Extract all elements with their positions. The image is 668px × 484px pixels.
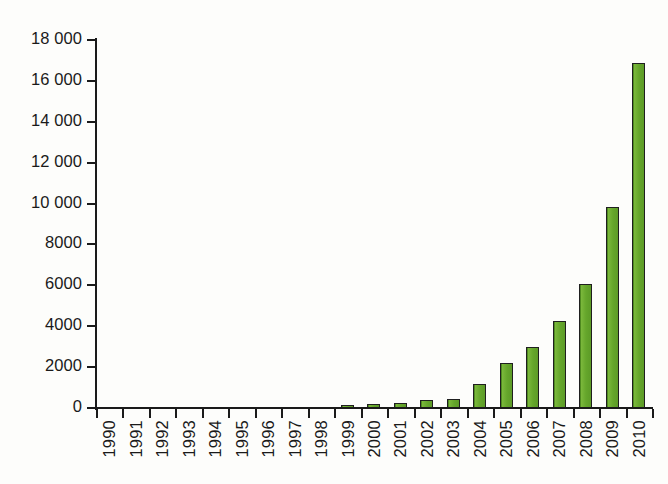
y-axis-tick-label: 18 000 (31, 29, 82, 48)
x-axis-tick-mark (652, 409, 654, 418)
y-axis-tick-label: 14 000 (31, 111, 82, 130)
y-axis-tick-mark (87, 243, 96, 245)
x-axis-tick-mark (599, 409, 601, 418)
y-axis-tick-label: 4000 (45, 315, 82, 334)
y-axis-tick-mark (87, 162, 96, 164)
bar-slot (361, 40, 387, 408)
y-axis-tick-mark (87, 39, 96, 41)
x-axis-label-1991: 1991 (126, 420, 145, 458)
x-axis-label-slot: 1992 (149, 420, 175, 482)
x-axis-label-slot: 1999 (334, 420, 360, 482)
x-axis-tick-mark (202, 409, 204, 418)
bar-slot (228, 40, 254, 408)
y-axis-tick-mark (87, 203, 96, 205)
x-axis-label-1994: 1994 (206, 420, 225, 458)
bar-slot (202, 40, 228, 408)
x-axis-label-slot: 2008 (573, 420, 599, 482)
x-axis-tick-mark (467, 409, 469, 418)
x-axis-label-slot: 2009 (599, 420, 625, 482)
bar-slot (573, 40, 599, 408)
x-axis-tick-mark (149, 409, 151, 418)
bar-slot (149, 40, 175, 408)
y-axis-tick-label: 0 (73, 397, 82, 416)
y-axis-tick-label: 6000 (45, 274, 82, 293)
x-axis-label-2006: 2006 (523, 420, 542, 458)
bar-slot (281, 40, 307, 408)
x-axis-tick-mark (414, 409, 416, 418)
x-axis-tick-mark (520, 409, 522, 418)
x-axis-label-slot: 1995 (228, 420, 254, 482)
x-axis-label-slot: 1997 (281, 420, 307, 482)
bar-2008 (579, 284, 592, 408)
y-axis-tick-mark (87, 121, 96, 123)
x-axis-tick-mark (255, 409, 257, 418)
x-axis-tick-mark (96, 409, 98, 418)
x-axis-label-1999: 1999 (338, 420, 357, 458)
plot-area (96, 40, 652, 408)
bar-2007 (553, 321, 566, 408)
y-axis-tick-label: 10 000 (31, 193, 82, 212)
x-axis-labels: 1990199119921993199419951996199719981999… (96, 420, 652, 482)
x-axis-tick-mark (281, 409, 283, 418)
x-axis-tick-mark (626, 409, 628, 418)
x-axis-label-slot: 2006 (520, 420, 546, 482)
x-axis-tick-mark (387, 409, 389, 418)
x-axis-label-2009: 2009 (603, 420, 622, 458)
bar-2009 (606, 207, 619, 408)
x-axis-label-slot: 2004 (467, 420, 493, 482)
x-axis-tick-mark (122, 409, 124, 418)
y-axis-tick-mark (87, 325, 96, 327)
x-axis-label-slot: 1993 (175, 420, 201, 482)
y-axis-tick-mark (87, 366, 96, 368)
x-axis-label-slot: 1990 (96, 420, 122, 482)
x-axis-label-slot: 2001 (387, 420, 413, 482)
bar-slot (626, 40, 652, 408)
bar-2005 (500, 363, 513, 408)
x-axis-tick-mark (228, 409, 230, 418)
bar-2004 (473, 384, 486, 408)
bar-slot (334, 40, 360, 408)
x-axis-tick-mark (308, 409, 310, 418)
x-axis-label-2002: 2002 (417, 420, 436, 458)
bar-slot (520, 40, 546, 408)
x-axis-tick-mark (440, 409, 442, 418)
x-axis-label-1990: 1990 (100, 420, 119, 458)
x-axis-ticks (96, 409, 652, 419)
x-axis-label-2004: 2004 (470, 420, 489, 458)
x-axis-label-slot: 1996 (255, 420, 281, 482)
bar-slot (467, 40, 493, 408)
x-axis-label-1995: 1995 (232, 420, 251, 458)
x-axis-label-2000: 2000 (364, 420, 383, 458)
x-axis-label-slot: 1994 (202, 420, 228, 482)
y-axis-tick-label: 8000 (45, 233, 82, 252)
x-axis-label-2007: 2007 (550, 420, 569, 458)
x-axis-tick-mark (493, 409, 495, 418)
bar-chart: 0200040006000800010 00012 00014 00016 00… (0, 0, 668, 484)
x-axis-label-slot: 2003 (440, 420, 466, 482)
x-axis-tick-mark (334, 409, 336, 418)
x-axis-label-2001: 2001 (391, 420, 410, 458)
bar-slot (122, 40, 148, 408)
x-axis-tick-mark (361, 409, 363, 418)
x-axis-label-1998: 1998 (312, 420, 331, 458)
bar-slot (546, 40, 572, 408)
bar-slot (440, 40, 466, 408)
x-axis-label-slot: 1991 (122, 420, 148, 482)
x-axis-tick-mark (546, 409, 548, 418)
bar-slot (493, 40, 519, 408)
bar-2006 (526, 347, 539, 408)
x-axis-label-slot: 2010 (626, 420, 652, 482)
x-axis-label-1993: 1993 (179, 420, 198, 458)
x-axis-label-2008: 2008 (576, 420, 595, 458)
y-axis-tick-mark (87, 80, 96, 82)
x-axis-label-slot: 1998 (308, 420, 334, 482)
x-axis-label-slot: 2002 (414, 420, 440, 482)
bar-slot (387, 40, 413, 408)
y-axis-tick-label: 16 000 (31, 70, 82, 89)
bar-2010 (632, 63, 645, 409)
x-axis-tick-mark (175, 409, 177, 418)
x-axis-label-2005: 2005 (497, 420, 516, 458)
y-axis-tick-label: 2000 (45, 356, 82, 375)
x-axis-label-slot: 2000 (361, 420, 387, 482)
y-axis-tick-mark (87, 284, 96, 286)
